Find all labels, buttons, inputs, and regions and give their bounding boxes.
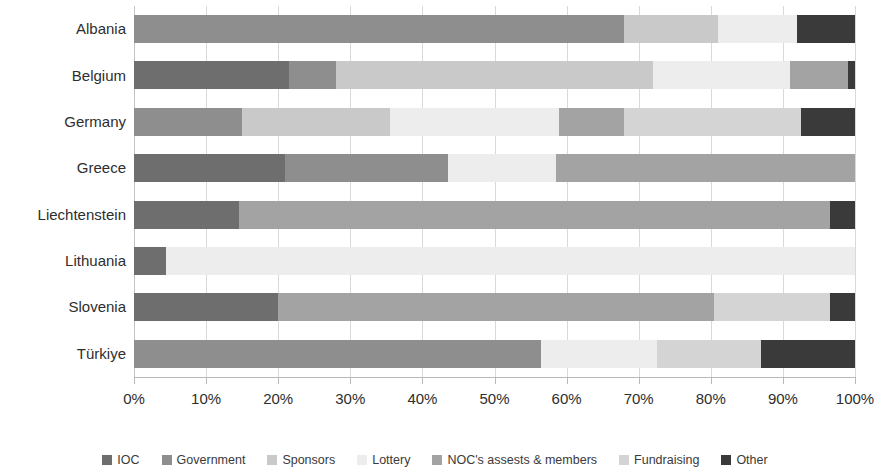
bar-segment[interactable] (718, 15, 797, 43)
bar-segment[interactable] (624, 108, 801, 136)
legend-swatch-icon (721, 455, 731, 465)
legend-label: IOC (117, 453, 139, 467)
legend-swatch-icon (102, 455, 112, 465)
stacked-bar[interactable] (134, 108, 855, 136)
stacked-bar[interactable] (134, 15, 855, 43)
x-axis-tick-label: 50% (479, 389, 509, 409)
bar-segment[interactable] (239, 201, 830, 229)
bar-segment[interactable] (761, 340, 855, 368)
bar-segment[interactable] (134, 201, 239, 229)
bar-row (134, 331, 855, 377)
legend-item[interactable]: Sponsors (267, 453, 335, 467)
stacked-bar[interactable] (134, 293, 855, 321)
legend-item[interactable]: Fundraising (619, 453, 699, 467)
x-axis-tick (422, 377, 423, 384)
x-axis-tick (350, 377, 351, 384)
legend-label: Sponsors (282, 453, 335, 467)
bar-row (134, 192, 855, 238)
category-label: Albania (0, 20, 126, 37)
bar-segment[interactable] (134, 15, 624, 43)
bar-segment[interactable] (448, 154, 556, 182)
bar-segment[interactable] (790, 61, 848, 89)
legend-item[interactable]: NOC's assests & members (432, 453, 597, 467)
bar-segment[interactable] (134, 154, 285, 182)
legend-label: Fundraising (634, 453, 699, 467)
x-axis-tick-labels: 0%10%20%30%40%50%60%70%80%90%100% (134, 389, 855, 411)
bar-segment[interactable] (559, 108, 624, 136)
bar-segment[interactable] (848, 61, 855, 89)
category-label: Liechtenstein (0, 206, 126, 223)
x-axis-tick-label: 100% (836, 389, 874, 409)
category-label: Türkiye (0, 345, 126, 362)
legend-label: Government (177, 453, 246, 467)
bar-row (134, 52, 855, 98)
x-axis-tick (567, 377, 568, 384)
bar-segment[interactable] (830, 201, 855, 229)
x-axis-tick (855, 377, 856, 384)
x-axis-tick (639, 377, 640, 384)
bar-segment[interactable] (336, 61, 653, 89)
bar-segment[interactable] (289, 61, 336, 89)
bar-segment[interactable] (541, 340, 656, 368)
x-axis-tick (206, 377, 207, 384)
legend-label: Other (736, 453, 767, 467)
bar-segment[interactable] (134, 247, 166, 275)
legend-swatch-icon (619, 455, 629, 465)
legend-swatch-icon (432, 455, 442, 465)
bar-row (134, 284, 855, 330)
bar-segment[interactable] (624, 15, 718, 43)
stacked-bar[interactable] (134, 340, 855, 368)
bar-segment[interactable] (134, 61, 289, 89)
bar-segment[interactable] (134, 293, 278, 321)
legend-item[interactable]: Lottery (357, 453, 410, 467)
bar-segment[interactable] (556, 154, 855, 182)
bar-segment[interactable] (242, 108, 390, 136)
category-label: Greece (0, 159, 126, 176)
category-label: Lithuania (0, 252, 126, 269)
bar-segment[interactable] (657, 340, 762, 368)
legend-label: NOC's assests & members (447, 453, 597, 467)
bar-row (134, 145, 855, 191)
legend-swatch-icon (162, 455, 172, 465)
legend-item[interactable]: Government (162, 453, 246, 467)
legend-swatch-icon (357, 455, 367, 465)
plot-area (134, 6, 855, 377)
legend-swatch-icon (267, 455, 277, 465)
x-axis-tick (278, 377, 279, 384)
x-axis-tick-label: 10% (191, 389, 221, 409)
x-axis-tick-label: 70% (624, 389, 654, 409)
stacked-bar[interactable] (134, 201, 855, 229)
bar-segment[interactable] (390, 108, 559, 136)
stacked-bar[interactable] (134, 61, 855, 89)
x-axis-tick-label: 20% (263, 389, 293, 409)
bar-segment[interactable] (278, 293, 714, 321)
bar-row (134, 238, 855, 284)
stacked-bar[interactable] (134, 247, 855, 275)
bar-segment[interactable] (134, 108, 242, 136)
category-label: Germany (0, 113, 126, 130)
bar-segment[interactable] (653, 61, 790, 89)
legend-item[interactable]: IOC (102, 453, 139, 467)
x-axis-tick (711, 377, 712, 384)
bar-segment[interactable] (166, 247, 855, 275)
x-axis-tick-label: 40% (407, 389, 437, 409)
bar-segment[interactable] (830, 293, 855, 321)
category-label: Belgium (0, 67, 126, 84)
bar-row (134, 6, 855, 52)
x-axis-tick-label: 80% (696, 389, 726, 409)
bar-segment[interactable] (285, 154, 447, 182)
chart-legend: IOCGovernmentSponsorsLotteryNOC's assest… (0, 448, 870, 471)
bar-segment[interactable] (797, 15, 855, 43)
gridline (855, 6, 856, 377)
x-axis-ticks (134, 377, 855, 384)
legend-item[interactable]: Other (721, 453, 767, 467)
bar-segment[interactable] (801, 108, 855, 136)
category-label: Slovenia (0, 298, 126, 315)
x-axis-tick-label: 0% (123, 389, 145, 409)
bar-segment[interactable] (134, 340, 541, 368)
x-axis-tick-label: 30% (335, 389, 365, 409)
bar-segment[interactable] (714, 293, 829, 321)
stacked-bar[interactable] (134, 154, 855, 182)
x-axis-tick (134, 377, 135, 384)
